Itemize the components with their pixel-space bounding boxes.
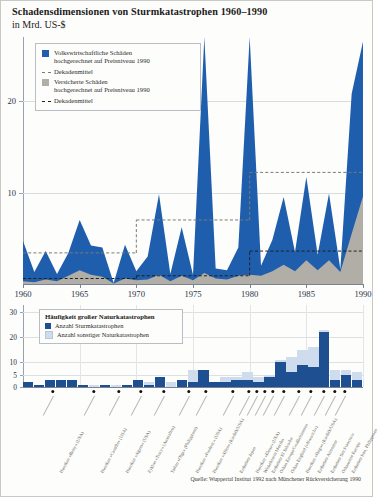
event-leader-line [109,396,120,416]
bar-segment-other [253,377,263,382]
bar-segment-other [341,370,351,375]
bar-segment-other [264,375,274,377]
event-leader-line [301,396,312,416]
event-leader-line [335,396,346,416]
bar-segment-storms [319,332,329,387]
bar-stack [242,372,252,387]
bar-segment-other [319,330,329,332]
bar-segment-storms [352,380,362,387]
x-tick-label: 1975 [184,289,201,299]
x-tick-label: 1985 [298,289,315,299]
bar-stack [253,377,263,387]
x-tick [23,284,24,288]
x-tick-label: 1960 [14,289,31,299]
page-subtitle: in Mrd. US-$ [12,18,362,31]
event-label: Taifun »Olga« (Philippinen) [170,426,199,474]
bar-stack [330,370,340,387]
legend-item: Anzahl sonstiger Naturkatastrophen [45,331,177,339]
dashed-line-icon [42,69,49,76]
event-marker-dot [187,390,190,393]
legend-frequency: Häufigkeit großer Naturkatastrophen Anza… [39,309,183,344]
event-marker-dot [204,390,207,393]
x-tick-label: 1970 [128,289,145,299]
top-y-tick-label: 20 [8,96,17,106]
bar-segment-storms [198,370,208,387]
bar-segment-storms [155,377,165,387]
x-tick [250,284,251,288]
bar-segment-other [308,347,318,367]
bar-segment-storms [264,377,274,387]
bottom-y-tick-label: 5 [13,370,17,379]
bar-segment-storms [330,380,340,387]
x-tick [363,284,364,288]
event-leader-line [196,396,207,416]
bar-segment-other [220,377,230,382]
dark-blue-square-icon [45,323,51,329]
legend-item: Volkswirtschaftliche Schädenhochgerechne… [42,49,194,65]
event-leader-line [43,396,54,416]
x-tick-label: 1965 [71,289,88,299]
event-leader-line [131,396,142,416]
x-tick-label: 1980 [241,289,258,299]
event-annotations: Hurrikan »Betsy« (USA)Hurrikan »Camille«… [1,387,374,483]
legend-item-label: Volkswirtschaftliche Schädenhochgerechne… [54,49,150,65]
figure-header: Schadensdimensionen von Sturmkatastrophe… [12,5,362,31]
blue-square-icon [42,50,49,57]
legend-frequency-title: Häufigkeit großer Naturkatastrophen [45,313,177,320]
bar-segment-storms [56,380,66,387]
grey-square-icon [42,79,49,86]
event-marker-dot [309,390,312,393]
legend-item: Dekadenmittel [42,97,194,105]
x-tick-label: 1990 [354,289,371,299]
bar-stack [308,347,318,387]
event-leader-line [179,396,190,416]
bar-segment-storms [242,380,252,387]
legend-item-label: Versicherte Schädenhochgerechnet auf Pre… [54,78,150,94]
bar-stack [319,330,329,387]
dashed-line-dark-icon [42,98,49,105]
legend-frequency-rows: Anzahl SturmkatastrophenAnzahl sonstiger… [45,322,177,339]
legend-item-label: Dekadenmittel [54,68,93,76]
bar-segment-other [231,377,241,379]
bar-segment-other [188,370,198,382]
x-tick [306,284,307,288]
event-leader-line [223,396,234,416]
event-marker-dot [282,390,285,393]
event-marker-dot [162,390,165,393]
bar-stack [231,377,241,387]
bar-stack [286,357,296,387]
event-leader-line [314,396,325,416]
event-leader-line [289,396,300,416]
legend-damages: Volkswirtschaftliche Schädenhochgerechne… [35,43,201,111]
bar-stack [56,380,66,387]
event-marker-dot [117,390,120,393]
event-label: Hurrikan »Allen« (Karibik/USA) [212,418,245,474]
event-marker-dot [255,390,258,393]
bar-segment-storms [297,365,307,387]
event-label: Hurrikan »Agnes« (USA) [125,430,152,474]
x-tick [80,284,81,288]
legend-item: Anzahl Sturmkatastrophen [45,322,177,329]
top-y-tick-label: 10 [8,188,17,198]
bar-segment-other [144,382,154,384]
event-leader-line [325,396,336,416]
bottom-vertical-gridline [363,305,364,387]
bar-stack [45,380,55,387]
bar-segment-other [286,357,296,372]
x-tick [136,284,137,288]
bar-stack [198,370,208,387]
event-label: Hurrikan »Betsy« (USA) [59,431,85,474]
bar-segment-other [352,372,362,379]
bottom-y-tick-label: 20 [10,333,17,342]
light-blue-square-icon [45,331,53,339]
bar-segment-storms [133,380,143,387]
bar-segment-storms [308,367,318,387]
x-tick [193,284,194,288]
event-leader-line [274,396,285,416]
bar-stack [133,380,143,387]
bar-stack [188,370,198,387]
bar-segment-other [297,350,307,365]
bar-segment-storms [341,375,351,387]
bar-stack [264,375,274,387]
